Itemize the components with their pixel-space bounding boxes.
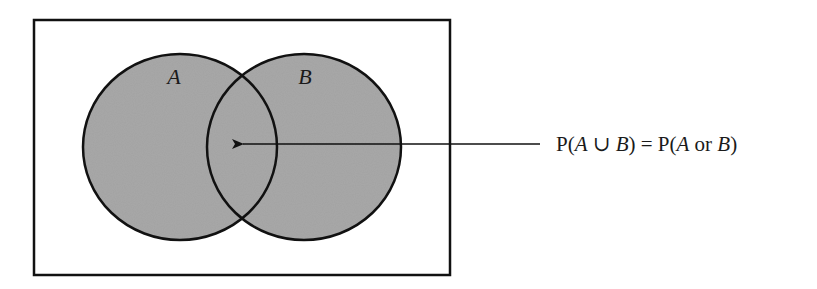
union-shading xyxy=(83,54,401,240)
formula-part: A xyxy=(573,132,588,156)
set-b-label: B xyxy=(298,64,311,89)
formula-part: ) xyxy=(730,132,737,156)
venn-diagram: A B P(A ∪ B) = P(A or B) xyxy=(0,0,817,289)
formula-part: P( xyxy=(556,132,575,156)
formula-part: B xyxy=(717,132,730,156)
formula-part: or xyxy=(689,132,717,156)
formula-part: ∪ xyxy=(588,132,616,156)
formula-part: A xyxy=(674,132,689,156)
formula-part: ) = P( xyxy=(628,132,676,156)
set-a-label: A xyxy=(165,64,181,89)
formula-part: B xyxy=(616,132,629,156)
union-probability-label: P(A ∪ B) = P(A or B) xyxy=(556,132,737,156)
